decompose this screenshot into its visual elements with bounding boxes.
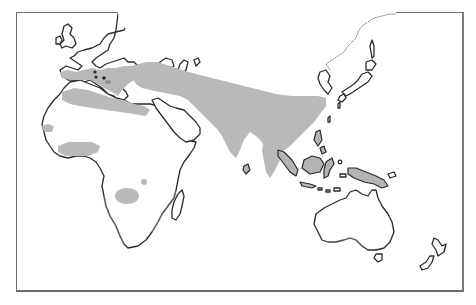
distribution-map: [0, 0, 476, 305]
australia-landmass: [314, 190, 394, 262]
new-zealand: [420, 238, 446, 270]
